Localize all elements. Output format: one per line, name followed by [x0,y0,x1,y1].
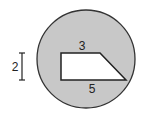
height-label: 2 [12,60,19,74]
bottom-base-label: 5 [89,82,96,96]
top-base-label: 3 [79,39,86,53]
diagram-canvas: 3 5 2 [0,0,148,123]
height-dimension-marker [19,53,25,80]
